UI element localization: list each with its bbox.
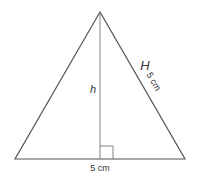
triangle-diagram: h H 5 cm 5 cm [0, 0, 197, 186]
right-angle-marker [100, 146, 113, 159]
slant-length-label: 5 cm [144, 71, 162, 93]
height-label: h [90, 83, 96, 95]
slant-height-label: H [140, 58, 150, 73]
base-length-label: 5 cm [90, 163, 110, 173]
